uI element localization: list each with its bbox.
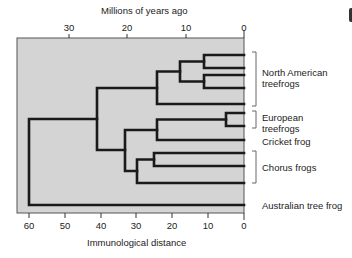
top-axis-ticks: [69, 30, 244, 38]
bottom-tick-30: 30: [131, 220, 142, 231]
top-tick-30: 30: [64, 22, 75, 33]
bottom-axis-title: Immunological distance: [87, 237, 186, 248]
top-tick-10: 10: [181, 22, 192, 33]
bottom-tick-60: 60: [24, 220, 35, 231]
top-tick-0: 0: [241, 22, 246, 33]
bottom-tick-0: 0: [241, 220, 246, 231]
label-european-treefrogs: European treefrogs: [262, 112, 303, 134]
bottom-tick-50: 50: [60, 220, 71, 231]
top-tick-20: 20: [122, 22, 133, 33]
label-na-line2: treefrogs: [262, 78, 327, 89]
bottom-axis-ticks: [29, 213, 244, 220]
label-eur-line1: European: [262, 112, 303, 123]
label-na-line1: North American: [262, 67, 327, 78]
top-axis-title: Millions of years ago: [101, 5, 188, 16]
label-eur-line2: treefrogs: [262, 123, 303, 134]
label-australian-tree-frog: Australian tree frog: [262, 200, 342, 211]
bottom-tick-40: 40: [96, 220, 107, 231]
group-brackets: [252, 52, 256, 183]
bottom-tick-10: 10: [203, 220, 214, 231]
label-chorus-frogs: Chorus frogs: [262, 162, 316, 173]
label-cricket-frog: Cricket frog: [262, 136, 311, 147]
plot-area: [17, 38, 244, 213]
label-north-american-treefrogs: North American treefrogs: [262, 67, 327, 89]
bottom-tick-20: 20: [167, 220, 178, 231]
